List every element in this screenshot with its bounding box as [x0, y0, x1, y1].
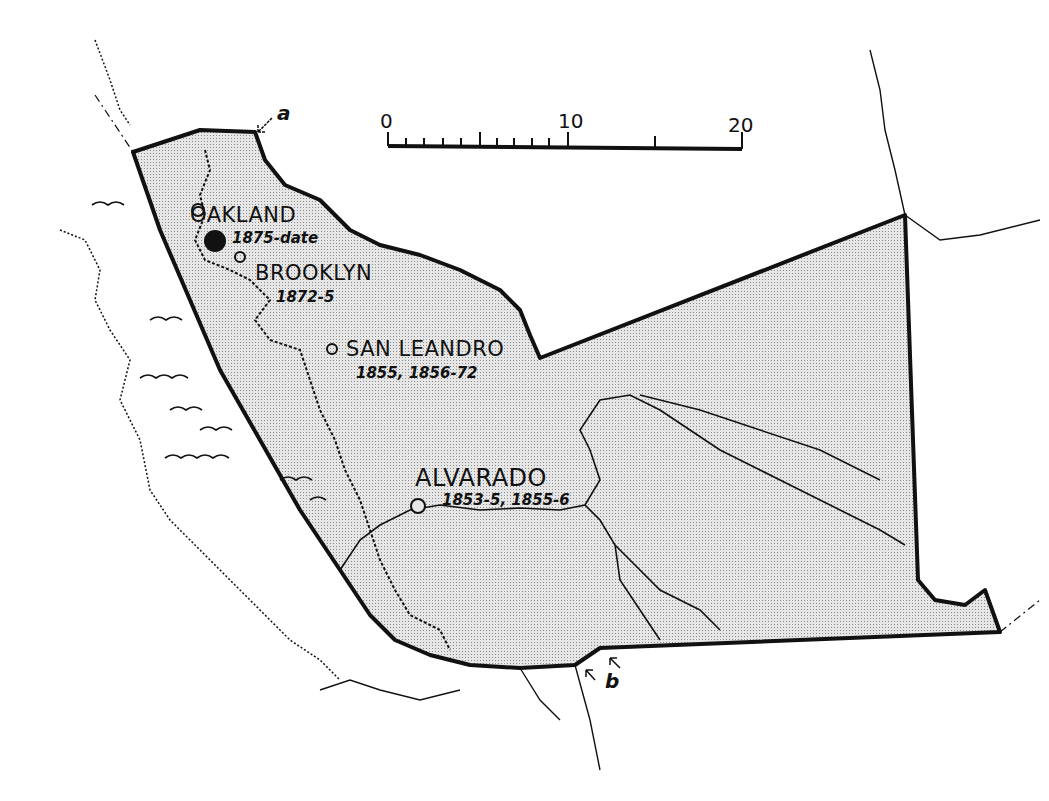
arrow-icon	[586, 670, 595, 680]
boundary-extension-se	[1000, 600, 1040, 632]
oakland-label: OAKLAND	[190, 203, 296, 227]
alvarado-symbol	[411, 499, 425, 513]
marker-a-label: a	[277, 101, 291, 125]
scale-tick-20: 20	[728, 113, 753, 137]
scale-tick-10: 10	[558, 109, 583, 133]
scale-bar: 0 10 20	[380, 109, 753, 149]
arrow-icon	[610, 658, 620, 668]
brooklyn-label: BROOKLYN	[255, 261, 372, 285]
marker-b: b	[586, 658, 620, 693]
oakland-dates: 1875-date	[232, 229, 318, 247]
stream-northeast	[870, 50, 1040, 240]
arrow-icon	[258, 118, 272, 132]
alvarado-dates: 1853-5, 1855-6	[442, 491, 570, 509]
county-map: 0 10 20 OAKLAND 1875-date BROOKLYN 1872-…	[0, 0, 1049, 801]
brooklyn-dates: 1872-5	[276, 288, 334, 306]
boundary-extension-nw	[95, 95, 133, 152]
san-leandro-dates: 1855, 1856-72	[356, 364, 478, 382]
oakland-symbol	[204, 230, 226, 252]
stream-southwest	[320, 665, 600, 770]
scale-tick-0: 0	[380, 109, 393, 133]
marker-b-label: b	[605, 669, 619, 693]
san-leandro-label: SAN LEANDRO	[346, 337, 504, 361]
alvarado-label: ALVARADO	[415, 464, 547, 492]
marker-a: a	[258, 101, 291, 132]
